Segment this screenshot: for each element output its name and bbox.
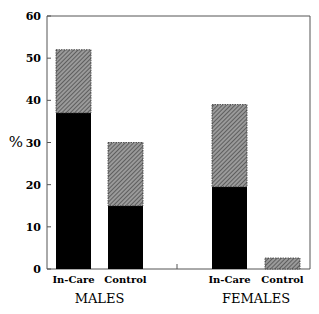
bar-segment-hatched — [212, 105, 247, 187]
category-label: In-Care — [208, 274, 250, 285]
bars — [56, 50, 300, 269]
stacked-bar-chart: 0102030405060 In-CareControlIn-CareContr… — [0, 0, 319, 314]
bar-segment-solid — [212, 187, 247, 269]
bar-segment-hatched — [108, 143, 143, 206]
category-label: Control — [261, 274, 303, 285]
y-tick-label: 0 — [33, 263, 41, 276]
y-axis-label: % — [9, 133, 23, 151]
category-label: In-Care — [52, 274, 94, 285]
bar-segment-hatched — [265, 258, 300, 269]
group-label: MALES — [75, 291, 125, 306]
y-tick-label: 20 — [26, 179, 42, 192]
bar-segment-solid — [108, 206, 143, 269]
bar-segment-solid — [56, 113, 91, 269]
y-tick-label: 50 — [26, 52, 42, 65]
group-label: FEMALES — [222, 291, 290, 306]
y-tick-label: 10 — [26, 221, 42, 234]
bar-segment-hatched — [56, 50, 91, 113]
y-tick-label: 60 — [26, 10, 42, 23]
x-axis-labels: In-CareControlIn-CareControlMALESFEMALES — [52, 274, 303, 306]
y-tick-label: 30 — [26, 137, 42, 150]
y-tick-label: 40 — [26, 94, 42, 107]
category-label: Control — [104, 274, 146, 285]
